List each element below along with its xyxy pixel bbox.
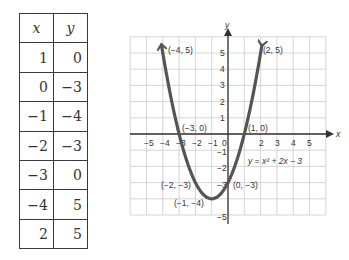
y-tick: 1 <box>220 113 225 123</box>
y-tick: −5 <box>217 212 227 222</box>
point-label: (1, 0) <box>248 123 268 133</box>
point-label: (0, −3) <box>233 180 258 190</box>
x-tick: −4 <box>160 138 170 148</box>
y-tick: 5 <box>220 48 225 58</box>
point-label: (−2, −3) <box>161 180 191 190</box>
y-axis-label: y <box>224 20 230 30</box>
point-label: (−4, 5) <box>168 45 193 55</box>
parabola-graph: x y −5 −4 −3 −2 −1 0 2 3 4 5 5 4 3 2 1 −… <box>0 0 349 260</box>
x-tick: 5 <box>307 138 312 148</box>
y-tick: 3 <box>220 80 225 90</box>
point-label: (−1, −4) <box>174 198 204 208</box>
x-tick: −5 <box>144 138 154 148</box>
y-tick: 4 <box>220 64 225 74</box>
x-tick: 4 <box>291 138 296 148</box>
x-tick: 2 <box>259 138 264 148</box>
y-tick: −2 <box>217 163 227 173</box>
x-tick: −2 <box>192 138 202 148</box>
y-tick: −1 <box>217 147 227 157</box>
y-tick: 2 <box>220 97 225 107</box>
x-axis-label: x <box>335 129 341 139</box>
point-label: (2, 5) <box>263 45 283 55</box>
equation-label: y = x² + 2x − 3 <box>247 156 302 166</box>
x-tick: 3 <box>275 138 280 148</box>
point-label: (−3, 0) <box>182 123 207 133</box>
